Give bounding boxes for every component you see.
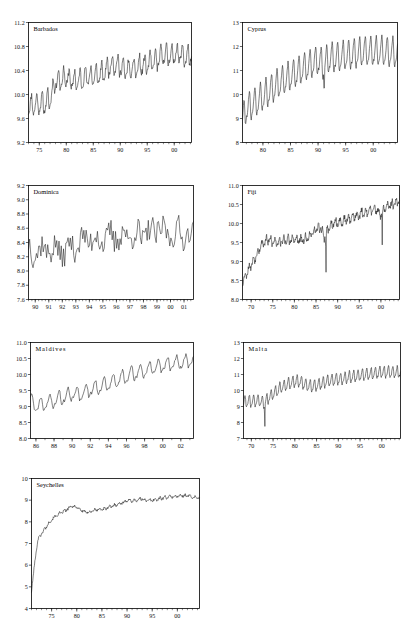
y-axis-tick-label: 9: [237, 404, 240, 410]
y-axis-tick-label: 9.2: [17, 140, 25, 146]
y-axis-tick-label: 8: [25, 519, 28, 525]
x-axis-tick-label: 95: [356, 304, 362, 310]
y-axis-tick-label: 9: [25, 497, 28, 503]
data-series-line: [243, 198, 400, 286]
y-axis-tick-label: 8: [237, 420, 240, 426]
chart-panel-malta: 7891011121370758085909500Malta: [243, 342, 402, 440]
y-axis-tick-label: 13: [234, 340, 240, 346]
y-axis-tick-label: 12: [234, 356, 240, 362]
x-axis-tick-label: 93: [73, 304, 79, 310]
y-axis-tick-label: 9.0: [17, 197, 25, 203]
x-axis-tick-label: 00: [167, 304, 173, 310]
data-series-line: [31, 354, 194, 411]
y-axis-tick-label: 9.6: [17, 116, 25, 122]
y-axis-tick-label: 10.5: [228, 202, 239, 208]
x-axis-tick-label: 96: [113, 304, 119, 310]
data-series-line: [29, 43, 192, 116]
x-axis-tick-label: 90: [32, 304, 38, 310]
plot-frame: [31, 343, 194, 439]
x-axis-tick-label: 75: [270, 304, 276, 310]
x-axis-tick-label: 80: [260, 147, 266, 153]
x-axis-tick-label: 95: [357, 443, 363, 449]
chart-panel-dominica: 7.67.88.08.28.48.68.89.09.29091929394959…: [28, 185, 195, 301]
panel-title: Seychelles: [37, 481, 65, 488]
x-axis-tick-label: 97: [127, 304, 133, 310]
y-axis-tick-label: 8.5: [19, 420, 27, 426]
x-axis-tick-label: 85: [287, 147, 293, 153]
data-series-line: [243, 35, 398, 124]
y-axis-tick-label: 10.0: [228, 221, 239, 227]
x-axis-tick-label: 95: [100, 304, 106, 310]
panel-title: Cyprus: [248, 25, 267, 32]
panel-title: Maldives: [36, 345, 67, 352]
x-axis-tick-label: 00: [370, 147, 376, 153]
x-axis-tick-label: 75: [36, 147, 42, 153]
chart-panel-fiji: 8.08.59.09.510.010.511.070758085909500Fi…: [242, 185, 401, 301]
x-axis-tick-label: 91: [46, 304, 52, 310]
x-axis-tick-label: 80: [74, 613, 80, 619]
y-axis-tick-label: 7: [25, 541, 28, 547]
y-axis-tick-label: 8.5: [231, 278, 239, 284]
chart-panel-barbados: 9.29.610.010.410.811.2758085909500Barbad…: [28, 22, 193, 144]
y-axis-tick-label: 10.8: [14, 44, 25, 50]
y-axis-tick-label: 11.2: [14, 20, 24, 26]
y-axis-tick-label: 10.0: [14, 92, 25, 98]
x-axis-tick-label: 95: [144, 147, 150, 153]
x-axis-tick-label: 95: [343, 147, 349, 153]
y-axis-tick-label: 10.5: [16, 356, 27, 362]
plot-frame: [29, 186, 194, 300]
chart-panel-maldives: 8.08.59.09.510.010.511.08688909294969800…: [30, 342, 195, 440]
y-axis-tick-label: 9.2: [17, 183, 25, 189]
y-axis-tick-label: 8.0: [17, 268, 25, 274]
x-axis-tick-label: 70: [248, 304, 254, 310]
x-axis-tick-label: 00: [174, 613, 180, 619]
x-axis-tick-label: 85: [313, 304, 319, 310]
x-axis-tick-label: 70: [248, 443, 254, 449]
x-axis-tick-label: 00: [378, 304, 384, 310]
y-axis-tick-label: 12: [233, 44, 239, 50]
y-axis-tick-label: 8: [236, 140, 239, 146]
y-axis-tick-label: 8.0: [19, 436, 27, 442]
multi-panel-time-series-figure: 9.29.610.010.410.811.2758085909500Barbad…: [0, 0, 414, 628]
y-axis-tick-label: 11: [234, 372, 240, 378]
x-axis-tick-label: 90: [335, 304, 341, 310]
x-axis-tick-label: 75: [270, 443, 276, 449]
y-axis-tick-label: 7.6: [17, 297, 25, 303]
chart-panel-cyprus: 89101112138085909500Cyprus: [242, 22, 399, 144]
y-axis-tick-label: 8.8: [17, 211, 25, 217]
plot-frame: [244, 343, 401, 439]
data-series-line: [32, 494, 200, 593]
plot-frame: [243, 186, 400, 300]
y-axis-tick-label: 7.8: [17, 282, 25, 288]
data-series-line: [29, 215, 194, 267]
y-axis-tick-label: 10: [233, 92, 239, 98]
x-axis-tick-label: 85: [90, 147, 96, 153]
x-axis-tick-label: 86: [33, 443, 39, 449]
x-axis-tick-label: 90: [335, 443, 341, 449]
y-axis-tick-label: 10.4: [14, 68, 25, 74]
y-axis-tick-label: 9.5: [19, 388, 27, 394]
x-axis-tick-label: 02: [178, 443, 184, 449]
x-axis-tick-label: 90: [315, 147, 321, 153]
y-axis-tick-label: 8.6: [17, 225, 25, 231]
x-axis-tick-label: 88: [51, 443, 57, 449]
y-axis-tick-label: 5: [25, 584, 28, 590]
x-axis-tick-label: 90: [117, 147, 123, 153]
y-axis-tick-label: 9.0: [231, 259, 239, 265]
x-axis-tick-label: 00: [379, 443, 385, 449]
y-axis-tick-label: 10: [234, 388, 240, 394]
y-axis-tick-label: 11.0: [228, 183, 238, 189]
panel-title: Barbados: [34, 25, 59, 32]
panel-title: Fiji: [248, 188, 257, 195]
plot-frame: [29, 23, 192, 143]
x-axis-tick-label: 00: [160, 443, 166, 449]
y-axis-tick-label: 9: [236, 116, 239, 122]
y-axis-tick-label: 11.0: [16, 340, 26, 346]
plot-frame: [32, 479, 200, 609]
x-axis-tick-label: 92: [87, 443, 93, 449]
chart-panel-seychelles: 45678910758085909500Seychelles: [31, 478, 201, 610]
x-axis-tick-label: 95: [149, 613, 155, 619]
y-axis-tick-label: 9.0: [19, 404, 27, 410]
x-axis-tick-label: 00: [171, 147, 177, 153]
x-axis-tick-label: 99: [154, 304, 160, 310]
